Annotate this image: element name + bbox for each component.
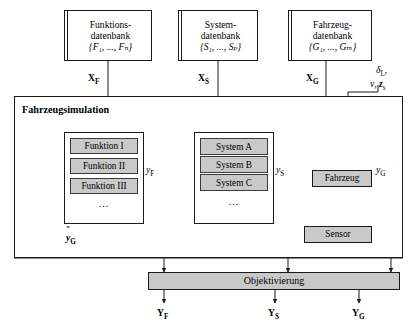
funktion-i-box[interactable]: Funktion I <box>70 138 138 154</box>
label-yf-sub: F <box>150 170 154 178</box>
system-a-box[interactable]: System A <box>200 138 268 155</box>
label-xs-sub: S <box>205 78 209 86</box>
objektivierung-box[interactable]: Objektivierung <box>148 272 400 290</box>
system-c-box[interactable]: System C <box>200 174 268 191</box>
label-output-yf: YF <box>157 307 168 321</box>
label-z-sub: s <box>383 84 386 92</box>
system-datenbank-line2: datenbank <box>201 30 240 41</box>
label-ys-sub: S <box>280 170 284 178</box>
system-group-ellipsis: ... <box>200 196 268 207</box>
label-xf-base: X <box>88 72 95 83</box>
funktions-datenbank-box: Funktions- datenbank {F₁, ..., Fₙ} <box>64 10 152 61</box>
label-xg-sub: G <box>313 78 319 86</box>
fahrzeug-datenbank-line2: datenbank <box>313 30 352 41</box>
system-b-box[interactable]: System B <box>200 156 268 173</box>
label-yg-tilde: ˜yG <box>66 232 76 246</box>
label-output-yf-base: Y <box>157 307 164 318</box>
label-output-yg: YG <box>352 307 365 321</box>
funktions-datenbank-line1: Funktions- <box>90 19 132 30</box>
tilde-accent-icon: ˜ <box>66 226 70 235</box>
label-yg: yG <box>376 164 385 178</box>
system-datenbank-set: {S₁, ..., Sₚ} <box>200 41 241 52</box>
funktions-datenbank-set: {F₁, ..., Fₙ} <box>89 41 132 52</box>
system-datenbank-line1: System- <box>205 19 236 30</box>
label-xg: XG <box>306 72 319 86</box>
label-delta-tail: , <box>385 64 387 75</box>
fahrzeug-datenbank-set: {G₁, ..., Gₘ} <box>309 41 357 52</box>
fahrzeug-box[interactable]: Fahrzeug <box>312 170 372 187</box>
label-xs-base: X <box>198 72 205 83</box>
label-output-yg-base: Y <box>352 307 359 318</box>
system-datenbank-box: System- datenbank {S₁, ..., Sₚ} <box>178 10 258 61</box>
label-yf: yF <box>146 164 154 178</box>
funktions-datenbank-line2: datenbank <box>91 30 130 41</box>
label-yg-tilde-group: ˜y <box>66 232 70 243</box>
label-output-yg-sub: G <box>359 313 365 321</box>
label-disturbance-v-z: v, zs <box>370 78 386 92</box>
label-output-ys-base: Y <box>268 307 275 318</box>
function-group-ellipsis: ... <box>70 198 138 209</box>
fahrzeug-datenbank-line1: Fahrzeug- <box>313 19 352 30</box>
label-vz-sep: , <box>374 78 376 89</box>
label-output-yf-sub: F <box>164 313 168 321</box>
fahrzeug-datenbank-box: Fahrzeug- datenbank {G₁, ..., Gₘ} <box>288 10 372 61</box>
label-xs: XS <box>198 72 209 86</box>
funktion-iii-box[interactable]: Funktion III <box>70 178 138 194</box>
label-output-ys-sub: S <box>275 313 279 321</box>
label-xg-base: X <box>306 72 313 83</box>
fahrzeugsimulation-title: Fahrzeugsimulation <box>22 104 109 115</box>
funktion-ii-box[interactable]: Funktion II <box>70 158 138 174</box>
diagram-canvas: Funktions- datenbank {F₁, ..., Fₙ} Syste… <box>0 0 417 329</box>
label-yg-sub: G <box>380 170 385 178</box>
label-output-ys: YS <box>268 307 279 321</box>
label-xf-sub: F <box>95 78 99 86</box>
label-yg-tilde-sub: G <box>70 238 76 246</box>
sensor-box[interactable]: Sensor <box>304 226 372 243</box>
label-xf: XF <box>88 72 99 86</box>
label-disturbance-delta: δL, <box>376 64 387 78</box>
label-ys: yS <box>276 164 284 178</box>
